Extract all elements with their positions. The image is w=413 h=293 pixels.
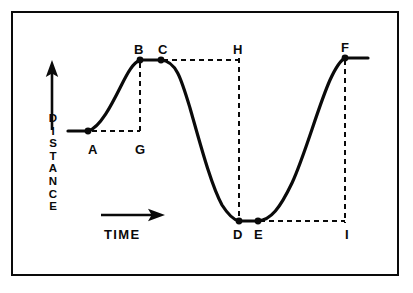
marker-a <box>85 128 92 135</box>
graph-canvas <box>0 0 413 293</box>
y-axis-letter-8: E <box>45 200 61 213</box>
point-label-b: B <box>134 43 143 56</box>
marker-e <box>255 218 262 225</box>
y-axis-letter-6: N <box>45 175 61 188</box>
y-axis-letter-2: I <box>45 125 61 138</box>
y-axis-letter-3: S <box>45 137 61 150</box>
point-label-i: I <box>345 228 349 241</box>
y-axis-letter-1: D <box>45 112 61 125</box>
point-label-a: A <box>88 143 97 156</box>
curve-c-to-d <box>161 60 239 221</box>
marker-d <box>236 218 243 225</box>
point-label-d: D <box>233 228 242 241</box>
point-label-g: G <box>135 143 145 156</box>
point-label-c: C <box>158 43 167 56</box>
curve-e-to-f <box>258 58 345 221</box>
y-axis-letter-4: T <box>45 150 61 163</box>
y-axis-letter-5: A <box>45 162 61 175</box>
marker-f <box>342 55 349 62</box>
point-label-f: F <box>341 41 349 54</box>
distance-curve <box>68 58 368 221</box>
point-label-h: H <box>233 43 242 56</box>
distance-time-graph-figure: D I S T A N C E TIME A B C D E F G H I <box>0 0 413 293</box>
curve-a-to-b <box>88 60 140 131</box>
marker-b <box>137 57 144 64</box>
y-axis-letter-7: C <box>45 188 61 201</box>
x-axis-arrow <box>101 209 165 221</box>
x-axis-label-time: TIME <box>104 228 141 241</box>
y-axis-label-distance: D I S T A N C E <box>45 112 61 213</box>
marker-c <box>158 57 165 64</box>
point-label-e: E <box>254 228 263 241</box>
